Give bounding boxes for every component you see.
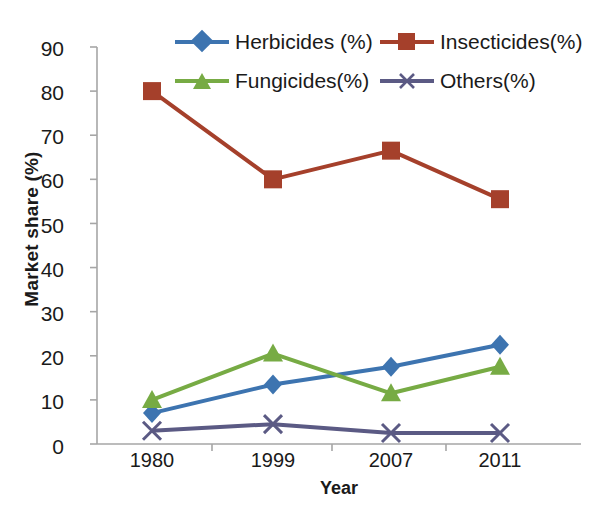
series-others xyxy=(143,415,509,442)
square-marker-icon xyxy=(264,170,282,188)
plot-area xyxy=(0,0,598,509)
square-marker-icon xyxy=(143,82,161,100)
line-chart: Market share (%) 90 80 70 60 50 40 30 20… xyxy=(0,0,598,509)
series-insecticides xyxy=(143,82,509,208)
diamond-marker-icon xyxy=(382,357,400,377)
triangle-marker-icon xyxy=(490,357,510,375)
diamond-marker-icon xyxy=(491,335,509,355)
series-line xyxy=(152,424,500,433)
triangle-marker-icon xyxy=(263,344,283,362)
square-marker-icon xyxy=(382,142,400,160)
square-marker-icon xyxy=(491,190,509,208)
series-line xyxy=(152,91,500,199)
diamond-marker-icon xyxy=(264,374,282,394)
